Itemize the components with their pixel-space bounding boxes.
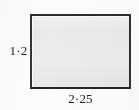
height-dimension-label: 1·2 (9, 44, 28, 57)
width-dimension-label: 2·25 (54, 92, 107, 105)
rectangle-fill (32, 16, 129, 87)
rectangle-shape (30, 14, 131, 89)
rectangle-dimension-figure: 1·2 2·25 (0, 0, 139, 110)
